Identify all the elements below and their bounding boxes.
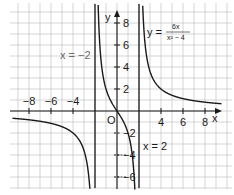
x-tick-label: 8	[202, 116, 208, 128]
x-tick-label: −4	[67, 95, 80, 107]
asymptote-label-left: x = −2	[60, 49, 91, 61]
y-tick-label: 6	[123, 39, 129, 51]
function-label-denominator: x² − 4	[167, 34, 185, 41]
y-tick-label: −2	[123, 127, 136, 139]
asymptote-label-right: x = 2	[143, 140, 167, 152]
x-axis-label: x	[212, 112, 218, 124]
x-tick-label: −6	[45, 95, 58, 107]
x-tick-label: 4	[158, 116, 164, 128]
y-tick-label: 4	[123, 61, 129, 73]
grid	[10, 3, 232, 189]
function-graph: y x O x = −2 x = 2 y = 6x x² − 4 −8−6−44…	[0, 0, 234, 195]
x-tick-label: 6	[180, 116, 186, 128]
y-axis-arrow-icon	[114, 10, 120, 17]
y-axis-label: y	[105, 11, 111, 23]
y-tick-label: 8	[123, 17, 129, 29]
function-label: y = 6x x² − 4	[147, 23, 190, 41]
x-tick-label: −8	[23, 95, 36, 107]
origin-label: O	[107, 114, 116, 126]
function-label-numerator: 6x	[172, 23, 180, 30]
y-tick-label: 2	[123, 83, 129, 95]
function-label-lhs: y =	[147, 26, 162, 38]
